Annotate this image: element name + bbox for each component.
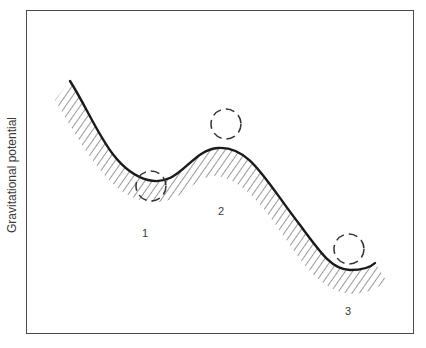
state-label-3: 3 [345, 305, 351, 317]
ground-hatching [40, 70, 400, 310]
energy-landscape [0, 0, 426, 348]
ball-on-hilltop [211, 109, 241, 139]
potential-energy-diagram: Gravitational potential 1 2 3 [0, 0, 426, 348]
state-label-2: 2 [218, 205, 224, 217]
state-label-1: 1 [142, 227, 148, 239]
ball-in-deep-well [334, 234, 364, 264]
